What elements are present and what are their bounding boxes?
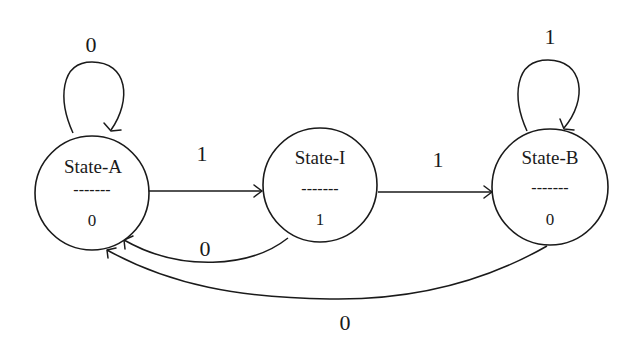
transition-label: 1 (433, 147, 444, 172)
state-node-a: State-A ------- 0 (35, 136, 149, 250)
state-divider: ------- (531, 179, 568, 196)
transition-i-to-b: 1 (378, 147, 492, 198)
edge-b-to-a (107, 246, 547, 299)
state-output: 0 (88, 211, 97, 230)
state-node-b: State-B ------- 0 (492, 129, 608, 245)
state-diagram: 0 1 1 1 0 0 State-A ------- 0 Stat (0, 0, 633, 346)
transition-a-to-a: 0 (64, 32, 124, 133)
state-divider: ------- (301, 180, 338, 197)
state-output: 0 (546, 210, 555, 229)
state-name: State-I (295, 147, 346, 168)
transition-label: 0 (200, 236, 211, 261)
state-node-i: State-I ------- 1 (263, 128, 377, 242)
transition-a-to-i: 1 (148, 141, 262, 197)
transition-i-to-a: 0 (124, 236, 288, 262)
transition-b-to-b: 1 (518, 24, 579, 131)
state-output: 1 (316, 210, 325, 229)
self-loop-edge-b (518, 60, 579, 131)
state-name: State-B (522, 147, 579, 168)
transition-label: 0 (86, 32, 97, 57)
state-divider: ------- (73, 181, 110, 198)
state-name: State-A (64, 156, 122, 177)
self-loop-edge-a (64, 62, 124, 133)
transition-label: 0 (340, 310, 351, 335)
transition-label: 1 (545, 24, 556, 49)
transition-label: 1 (197, 141, 208, 166)
